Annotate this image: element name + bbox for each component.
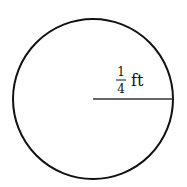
radius-numerator: 1 — [117, 65, 125, 79]
circle-diagram: 1 4 ft — [0, 0, 187, 187]
radius-unit: ft — [131, 71, 144, 90]
radius-denominator: 4 — [117, 82, 125, 96]
radius-label: 1 4 ft — [116, 65, 144, 96]
